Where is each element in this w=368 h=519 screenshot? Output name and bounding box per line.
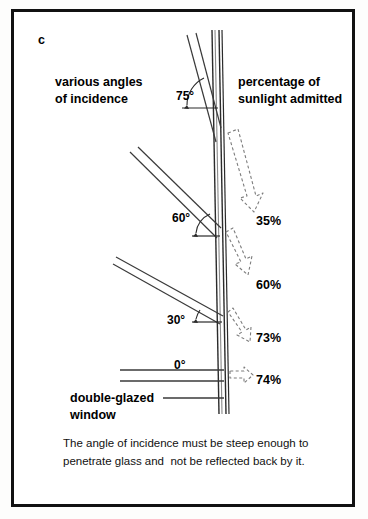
transmitted-arrow-35 bbox=[228, 129, 263, 212]
angle-label-30: 30° bbox=[167, 313, 185, 327]
transmitted-arrow-74 bbox=[230, 367, 253, 383]
transmitted-arrow-60 bbox=[226, 228, 252, 275]
incident-beam-0 bbox=[120, 370, 224, 381]
angle-label-75: 75° bbox=[176, 89, 194, 103]
right-heading-percentage-of-sunlight-admitted: percentage of sunlight admitted bbox=[238, 74, 342, 108]
percentage-label-35: 35% bbox=[256, 214, 281, 228]
figure-caption: The angle of incidence must be steep eno… bbox=[63, 434, 309, 470]
percentage-label-73: 73% bbox=[256, 331, 281, 345]
percentage-label-74: 74% bbox=[256, 373, 281, 387]
figure-panel: c various angles of incidence percentage… bbox=[0, 0, 368, 519]
double-glazed-window-label: double-glazed window bbox=[70, 390, 154, 424]
percentage-label-60: 60% bbox=[256, 278, 281, 292]
transmitted-arrow-73 bbox=[228, 308, 251, 342]
left-heading-various-angles-of-incidence: various angles of incidence bbox=[55, 74, 143, 108]
panel-letter: c bbox=[38, 33, 45, 47]
angle-label-60: 60° bbox=[172, 211, 190, 225]
angle-label-0: 0° bbox=[174, 358, 185, 372]
